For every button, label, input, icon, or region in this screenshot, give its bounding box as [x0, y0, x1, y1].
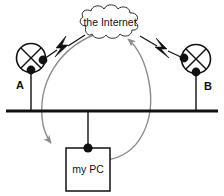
pc-label: my PC — [72, 163, 104, 175]
link-a-to-cloud[interactable] — [44, 35, 85, 59]
node-b[interactable]: B — [180, 45, 212, 112]
node-b-label: B — [204, 80, 212, 92]
node-a-label: A — [16, 79, 24, 91]
cloud-label: the Internet — [83, 16, 136, 28]
link-b-segment-upper — [140, 36, 157, 46]
flow-arrow-upstream — [106, 39, 151, 160]
lightning-bolt-icon — [155, 38, 169, 58]
internet-cloud[interactable]: the Internet — [80, 5, 138, 38]
pc-connector-dot — [83, 143, 92, 152]
diagram-canvas: the Internet A B — [0, 0, 224, 196]
node-b-base-dot — [192, 68, 201, 77]
link-b-segment-lower — [168, 51, 183, 58]
my-pc[interactable]: my PC — [66, 111, 110, 191]
network-diagram: the Internet A B — [0, 0, 224, 196]
lightning-bolt-icon — [55, 36, 68, 57]
node-a-base-dot — [27, 66, 36, 75]
link-a-segment-lower — [44, 50, 57, 59]
node-b-port-dot — [180, 54, 189, 63]
link-b-to-cloud[interactable] — [140, 36, 183, 58]
